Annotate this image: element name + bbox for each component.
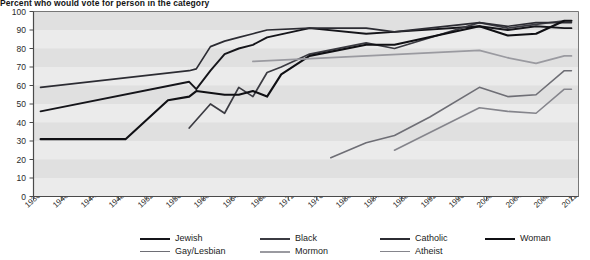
legend-label: Jewish (175, 234, 203, 243)
grid-band (34, 12, 579, 31)
legend-label: Mormon (295, 247, 328, 256)
grid-band (34, 160, 579, 179)
legend-swatch (485, 238, 515, 240)
legend-item-black[interactable]: Black (260, 234, 317, 243)
legend-item-jewish[interactable]: Jewish (140, 234, 203, 243)
legend-row: Gay/LesbianMormonAtheist (140, 245, 570, 258)
legend-swatch (380, 238, 410, 240)
legend-swatch (260, 238, 290, 240)
line-chart-plot (0, 0, 590, 260)
legend-swatch (260, 251, 290, 253)
legend-label: Woman (520, 234, 551, 243)
legend-item-catholic[interactable]: Catholic (380, 234, 448, 243)
chart-legend: JewishBlackCatholicWomanGay/LesbianMormo… (140, 232, 570, 258)
legend-label: Catholic (415, 234, 448, 243)
legend-item-woman[interactable]: Woman (485, 234, 551, 243)
legend-row: JewishBlackCatholicWoman (140, 232, 570, 245)
legend-label: Black (295, 234, 317, 243)
legend-item-atheist[interactable]: Atheist (380, 247, 443, 256)
legend-swatch (140, 251, 170, 252)
legend-label: Gay/Lesbian (175, 247, 226, 256)
legend-item-mormon[interactable]: Mormon (260, 247, 328, 256)
legend-swatch (140, 238, 170, 240)
legend-label: Atheist (415, 247, 443, 256)
grid-band (34, 86, 579, 105)
legend-swatch (380, 251, 410, 252)
legend-item-gay-lesbian[interactable]: Gay/Lesbian (140, 247, 226, 256)
chart-root: Percent who would vote for person in the… (0, 0, 590, 260)
